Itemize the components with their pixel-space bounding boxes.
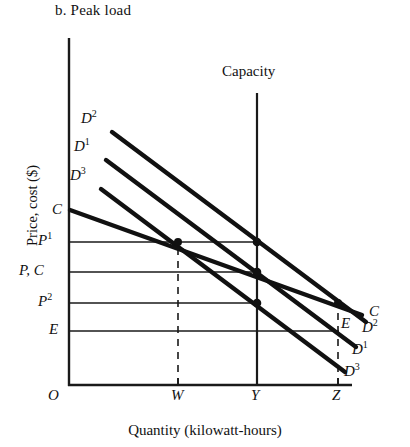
x-tick-label-z: Z	[332, 387, 340, 404]
equilibrium-dot-d3-capacity	[253, 299, 262, 308]
curve-label-right-d1: D1	[352, 341, 368, 358]
y-tick-label-p2: P2	[38, 293, 52, 310]
equilibrium-dot-d2-cost-z	[334, 299, 342, 307]
curve-label-right-e: E	[341, 315, 350, 332]
x-tick-label-w: W	[171, 387, 184, 404]
curve-label-left-d2: D2	[81, 110, 97, 127]
equilibrium-dot-d2-capacity	[253, 238, 262, 247]
y-tick-label-e: E	[49, 321, 58, 338]
equilibrium-dot-d1-capacity	[253, 268, 262, 277]
equilibrium-dot-d3-cost-w	[174, 238, 182, 246]
x-tick-label-y: Y	[251, 387, 259, 404]
curve-label-right-d2: D2	[362, 319, 378, 336]
cost-curve-c	[70, 210, 362, 315]
curve-label-left-d1: D1	[74, 138, 90, 155]
demand-curve-d1	[106, 160, 356, 347]
y-tick-label-o: O	[48, 387, 59, 404]
curve-label-left-d3: D3	[70, 167, 86, 184]
y-tick-label-c: C	[52, 201, 62, 218]
curve-label-right-d3: D3	[344, 363, 360, 380]
peak-load-chart-figure: b. Peak load Capacity Price, cost ($) Qu…	[0, 0, 410, 447]
y-tick-label-p1: P1	[38, 232, 52, 249]
y-tick-label-pc: P, C	[19, 262, 44, 279]
